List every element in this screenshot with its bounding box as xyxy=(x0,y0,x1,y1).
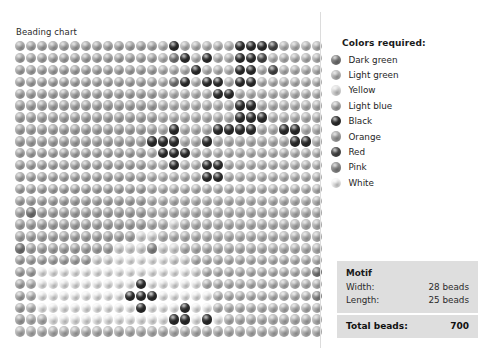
bead[interactable] xyxy=(114,89,124,99)
bead[interactable] xyxy=(147,112,157,122)
bead[interactable] xyxy=(15,196,25,206)
bead[interactable] xyxy=(301,41,311,51)
bead[interactable] xyxy=(158,148,168,158)
bead[interactable] xyxy=(114,53,124,63)
bead[interactable] xyxy=(125,148,135,158)
bead[interactable] xyxy=(235,291,245,301)
bead[interactable] xyxy=(301,219,311,229)
bead[interactable] xyxy=(158,124,168,134)
bead[interactable] xyxy=(114,279,124,289)
bead[interactable] xyxy=(158,231,168,241)
bead[interactable] xyxy=(257,255,267,265)
bead[interactable] xyxy=(26,160,36,170)
bead[interactable] xyxy=(37,172,47,182)
bead[interactable] xyxy=(290,326,300,336)
bead[interactable] xyxy=(81,89,91,99)
bead[interactable] xyxy=(235,53,245,63)
bead[interactable] xyxy=(268,148,278,158)
bead[interactable] xyxy=(103,112,113,122)
bead[interactable] xyxy=(290,89,300,99)
bead[interactable] xyxy=(48,196,58,206)
bead[interactable] xyxy=(59,65,69,75)
bead[interactable] xyxy=(301,112,311,122)
bead[interactable] xyxy=(290,53,300,63)
bead[interactable] xyxy=(246,207,256,217)
bead[interactable] xyxy=(213,136,223,146)
bead[interactable] xyxy=(235,219,245,229)
bead[interactable] xyxy=(213,160,223,170)
bead[interactable] xyxy=(290,160,300,170)
bead[interactable] xyxy=(136,89,146,99)
bead[interactable] xyxy=(224,112,234,122)
bead[interactable] xyxy=(246,291,256,301)
bead[interactable] xyxy=(92,65,102,75)
bead[interactable] xyxy=(257,148,267,158)
bead[interactable] xyxy=(202,267,212,277)
bead[interactable] xyxy=(257,100,267,110)
bead[interactable] xyxy=(158,100,168,110)
bead[interactable] xyxy=(191,148,201,158)
bead[interactable] xyxy=(158,172,168,182)
bead[interactable] xyxy=(290,124,300,134)
bead[interactable] xyxy=(246,219,256,229)
bead[interactable] xyxy=(59,255,69,265)
bead[interactable] xyxy=(191,53,201,63)
bead[interactable] xyxy=(37,255,47,265)
bead[interactable] xyxy=(301,89,311,99)
bead[interactable] xyxy=(191,196,201,206)
bead[interactable] xyxy=(26,136,36,146)
bead[interactable] xyxy=(301,314,311,324)
bead[interactable] xyxy=(158,314,168,324)
bead[interactable] xyxy=(246,314,256,324)
bead[interactable] xyxy=(235,279,245,289)
bead[interactable] xyxy=(125,326,135,336)
bead[interactable] xyxy=(103,100,113,110)
bead[interactable] xyxy=(213,255,223,265)
bead[interactable] xyxy=(125,243,135,253)
bead[interactable] xyxy=(158,184,168,194)
bead[interactable] xyxy=(114,231,124,241)
bead[interactable] xyxy=(92,41,102,51)
bead[interactable] xyxy=(246,184,256,194)
bead[interactable] xyxy=(257,89,267,99)
bead[interactable] xyxy=(37,136,47,146)
bead[interactable] xyxy=(114,219,124,229)
bead[interactable] xyxy=(301,184,311,194)
bead[interactable] xyxy=(279,314,289,324)
bead[interactable] xyxy=(224,100,234,110)
bead[interactable] xyxy=(158,196,168,206)
bead[interactable] xyxy=(224,136,234,146)
bead[interactable] xyxy=(136,160,146,170)
bead[interactable] xyxy=(213,65,223,75)
bead[interactable] xyxy=(15,172,25,182)
bead[interactable] xyxy=(301,207,311,217)
legend-item[interactable]: Dark green xyxy=(331,52,476,67)
bead[interactable] xyxy=(59,326,69,336)
legend-item[interactable]: Orange xyxy=(331,129,476,144)
bead[interactable] xyxy=(290,243,300,253)
bead[interactable] xyxy=(70,303,80,313)
bead[interactable] xyxy=(279,160,289,170)
bead[interactable] xyxy=(235,41,245,51)
bead[interactable] xyxy=(213,89,223,99)
bead[interactable] xyxy=(92,219,102,229)
bead[interactable] xyxy=(235,124,245,134)
bead[interactable] xyxy=(213,243,223,253)
bead[interactable] xyxy=(213,172,223,182)
bead[interactable] xyxy=(70,255,80,265)
bead[interactable] xyxy=(290,172,300,182)
bead[interactable] xyxy=(268,160,278,170)
bead[interactable] xyxy=(48,291,58,301)
bead[interactable] xyxy=(26,184,36,194)
bead[interactable] xyxy=(224,65,234,75)
bead[interactable] xyxy=(257,77,267,87)
bead[interactable] xyxy=(268,243,278,253)
bead[interactable] xyxy=(59,207,69,217)
bead[interactable] xyxy=(59,303,69,313)
bead[interactable] xyxy=(147,53,157,63)
legend-item[interactable]: Yellow xyxy=(331,83,476,98)
bead[interactable] xyxy=(103,243,113,253)
bead[interactable] xyxy=(202,160,212,170)
bead[interactable] xyxy=(70,267,80,277)
bead[interactable] xyxy=(279,184,289,194)
